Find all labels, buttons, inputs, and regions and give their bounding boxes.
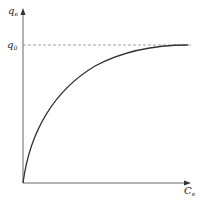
q0-label: q0: [7, 40, 17, 51]
isotherm-curve: [23, 45, 188, 183]
y-axis-arrow-icon: [21, 8, 26, 15]
x-axis-label: Ce: [184, 186, 195, 197]
y-axis-label: qe: [8, 6, 18, 17]
adsorption-isotherm-diagram: [0, 0, 205, 209]
